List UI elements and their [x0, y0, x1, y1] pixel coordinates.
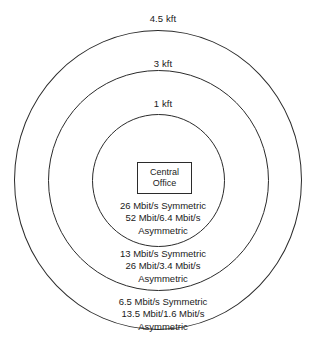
rate-line-middle-3: Asymmetric: [0, 273, 326, 285]
rate-line-middle-2: 26 Mbit/3.4 Mbit/s: [0, 260, 326, 272]
rate-block-middle: 13 Mbit/s Symmetric 26 Mbit/3.4 Mbit/s A…: [0, 248, 326, 285]
ring-label-outer: 4.5 kft: [0, 13, 326, 24]
rate-line-inner-3: Asymmetric: [0, 225, 326, 237]
rate-line-outer-1: 6.5 Mbit/s Symmetric: [0, 296, 326, 308]
diagram-canvas: 4.5 kft 3 kft 1 kft Central Office 26 Mb…: [0, 0, 326, 349]
rate-line-inner-1: 26 Mbit/s Symmetric: [0, 200, 326, 212]
central-office-line-1: Central: [150, 167, 179, 178]
ring-label-inner: 1 kft: [0, 98, 326, 109]
central-office-line-2: Office: [153, 178, 176, 189]
rate-block-inner: 26 Mbit/s Symmetric 52 Mbit/6.4 Mbit/s A…: [0, 200, 326, 237]
rate-block-outer: 6.5 Mbit/s Symmetric 13.5 Mbit/1.6 Mbit/…: [0, 296, 326, 333]
rate-line-outer-2: 13.5 Mbit/1.6 Mbit/s: [0, 308, 326, 320]
ring-label-middle: 3 kft: [0, 58, 326, 69]
rate-line-inner-2: 52 Mbit/6.4 Mbit/s: [0, 212, 326, 224]
rate-line-middle-1: 13 Mbit/s Symmetric: [0, 248, 326, 260]
central-office-node: Central Office: [137, 162, 192, 194]
rate-line-outer-3: Asymmetric: [0, 321, 326, 333]
